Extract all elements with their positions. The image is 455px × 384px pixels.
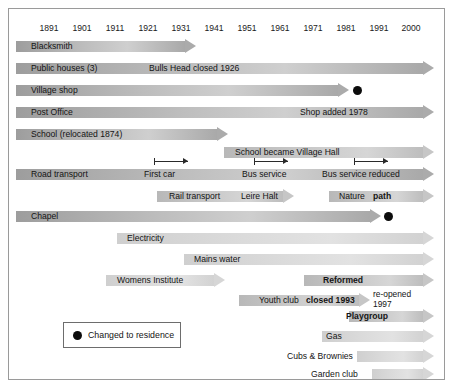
axis-tick-1921: 1921 — [138, 23, 157, 33]
event-arrow-bus-service-reduced — [354, 157, 388, 166]
timeline-row-rail-transport: Rail transport Leire Halt Nature path — [9, 189, 444, 205]
annotation-bulls-head-closed: Bulls Head closed 1926 — [149, 61, 239, 76]
axis-tick-1941: 1941 — [204, 23, 223, 33]
axis-tick-1891: 1891 — [39, 23, 58, 33]
timeline-row-garden-club: Garden club — [9, 367, 444, 380]
event-arrow-bus-service — [254, 157, 288, 166]
bar-label-nature: Nature — [339, 189, 365, 204]
timeline-row-blacksmith: Blacksmith — [9, 39, 444, 55]
annotation-closed-1993: closed 1993 — [306, 293, 355, 308]
bar-label-leire-halt: Leire Halt — [241, 189, 278, 204]
timeline-row-village-shop: Village shop — [9, 83, 444, 99]
event-label-bus-service: Bus service — [242, 167, 286, 182]
axis-tick-1971: 1971 — [303, 23, 322, 33]
bar-label-blacksmith: Blacksmith — [31, 39, 73, 54]
timeline-row-cubs-brownies: Cubs & Brownies — [9, 349, 444, 365]
legend-box: Changed to residence — [63, 322, 181, 348]
event-arrow-first-car — [154, 157, 188, 166]
bar-electricity[interactable] — [117, 231, 434, 246]
event-label-first-car: First car — [144, 167, 175, 182]
bar-cubs-brownies[interactable] — [357, 349, 434, 364]
bar-label-school: School (relocated 1874) — [31, 127, 122, 142]
timeline-row-youth-club: Youth club closed 1993 re-opened 1997 — [9, 293, 444, 309]
timeline-row-school: School (relocated 1874) — [9, 127, 444, 143]
bar-label-chapel: Chapel — [31, 209, 58, 224]
axis-tick-1961: 1961 — [270, 23, 289, 33]
residence-dot-chapel — [384, 212, 393, 221]
bar-label-road-transport: Road transport — [31, 167, 88, 182]
bar-garden-club[interactable] — [372, 367, 434, 380]
bar-post-office[interactable] — [16, 105, 434, 120]
bar-label-mains-water: Mains water — [194, 252, 240, 267]
axis-tick-1911: 1911 — [106, 23, 124, 33]
axis-tick-1931: 1931 — [171, 23, 190, 33]
axis-tick-1981: 1981 — [336, 23, 355, 33]
bar-label-youth-club: Youth club — [259, 293, 299, 308]
residence-dot-village-shop — [353, 86, 362, 95]
timeline-row-public-houses: Public houses (3) Bulls Head closed 1926 — [9, 61, 444, 77]
bar-label-electricity: Electricity — [127, 231, 164, 246]
event-label-bus-service-reduced: Bus service reduced — [322, 167, 400, 182]
bar-label-reformed: Reformed — [323, 273, 363, 288]
axis-tick-2000: 2000 — [401, 23, 420, 33]
bar-label-path: path — [373, 189, 391, 204]
clipped-caption-strip: · · · · — [0, 0, 455, 7]
timeline-row-chapel: Chapel — [9, 209, 444, 225]
timeline-chart-frame: 1891 1901 1911 1921 1931 1941 1951 1961 … — [8, 8, 445, 380]
legend-circle-icon — [73, 331, 82, 340]
timeline-row-road-transport: Road transport First car Bus service Bus… — [9, 167, 444, 183]
bar-label-village-shop: Village shop — [31, 83, 78, 98]
bar-label-playgroup: Playgroup — [346, 309, 388, 324]
legend-label: Changed to residence — [88, 330, 174, 340]
bar-label-rail-transport: Rail transport — [169, 189, 220, 204]
axis-tick-1901: 1901 — [72, 23, 91, 33]
bar-label-cubs-brownies: Cubs & Brownies — [287, 349, 353, 364]
bar-label-post-office: Post Office — [31, 105, 73, 120]
bar-label-public-houses: Public houses (3) — [31, 61, 97, 76]
axis-tick-1991: 1991 — [369, 23, 388, 33]
year-axis: 1891 1901 1911 1921 1931 1941 1951 1961 … — [9, 9, 444, 35]
bar-label-gas: Gas — [326, 329, 342, 344]
timeline-row-post-office: Post Office Shop added 1978 — [9, 105, 444, 121]
axis-tick-1951: 1951 — [237, 23, 256, 33]
timeline-row-mains-water: Mains water — [9, 252, 444, 268]
timeline-row-womens-institute: Womens Institute Reformed — [9, 273, 444, 289]
timeline-row-electricity: Electricity — [9, 231, 444, 247]
annotation-shop-added: Shop added 1978 — [300, 105, 368, 120]
bar-label-womens-institute: Womens Institute — [117, 273, 183, 288]
bar-chapel[interactable] — [16, 209, 381, 224]
bar-label-garden-club: Garden club — [311, 367, 358, 380]
clipped-caption-text: · · · · — [95, 0, 126, 3]
